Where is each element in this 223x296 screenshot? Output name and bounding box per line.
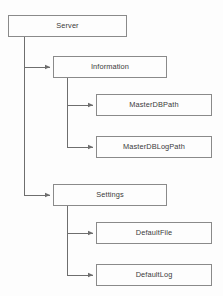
node-label-settings: Settings	[96, 191, 124, 198]
node-settings[interactable]: Settings	[53, 184, 167, 206]
node-label-defaultfile: DefaultFile	[136, 229, 172, 236]
node-label-information: Information	[91, 63, 129, 70]
node-defaultlog[interactable]: DefaultLog	[96, 264, 212, 286]
node-label-masterdblogpath: MasterDBLogPath	[123, 143, 185, 150]
node-masterdblogpath[interactable]: MasterDBLogPath	[96, 136, 212, 158]
node-label-server: Server	[56, 22, 78, 29]
diagram-canvas: Server Information MasterDBPath MasterDB…	[0, 0, 223, 296]
node-masterdbpath[interactable]: MasterDBPath	[96, 94, 212, 116]
node-label-defaultlog: DefaultLog	[136, 271, 173, 278]
node-label-masterdbpath: MasterDBPath	[129, 101, 178, 108]
node-server[interactable]: Server	[8, 15, 127, 37]
node-information[interactable]: Information	[53, 56, 167, 78]
node-defaultfile[interactable]: DefaultFile	[96, 222, 212, 244]
